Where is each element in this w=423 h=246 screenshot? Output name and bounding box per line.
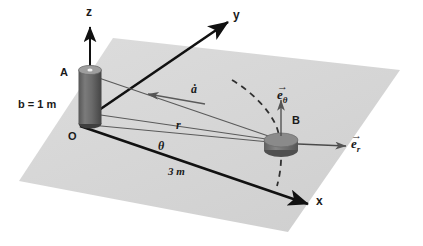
cable-rate-label: ȧ <box>191 83 197 95</box>
axis-label-y: y <box>233 9 240 21</box>
point-label-b: B <box>292 115 300 126</box>
unit-vector-label-e-r: → er <box>351 135 360 154</box>
scene-graphics <box>0 0 423 246</box>
post-height-label: b = 1 m <box>18 99 56 110</box>
post-body <box>79 70 102 124</box>
diagram-canvas: z y x A O B b = 1 m 3 m r θ ȧ → eθ → er <box>0 0 423 246</box>
x-distance-label: 3 m <box>168 166 185 177</box>
unit-vector-label-e-theta: → eθ <box>277 86 287 105</box>
vector-accent-arrow-e-theta: → <box>277 81 288 92</box>
vector-accent-arrow-e-r: → <box>351 130 362 141</box>
axis-label-x: x <box>316 195 323 207</box>
point-label-o: O <box>68 131 77 142</box>
vector-subscript-e-theta: θ <box>283 95 288 105</box>
vector-subscript-e-r: r <box>357 144 361 154</box>
radial-distance-label: r <box>176 119 181 131</box>
angle-theta-label: θ <box>158 140 164 152</box>
point-label-a: A <box>60 67 68 78</box>
post-top-hole <box>87 69 92 72</box>
axis-label-z: z <box>86 6 92 18</box>
